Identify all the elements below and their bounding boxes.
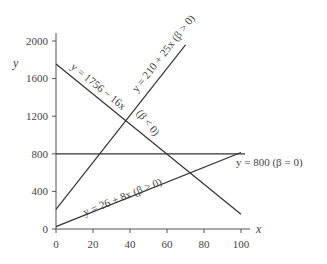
- y-axis-title: y: [12, 56, 19, 70]
- label-1756-minus-16x: y = 1756 − 16x: [69, 60, 129, 112]
- label-beta-lt-0: (β < 0): [134, 107, 163, 139]
- x-axis-title: x: [255, 222, 262, 236]
- x-tick-label: 40: [125, 238, 137, 250]
- y-ticks: [52, 41, 56, 229]
- y-tick-label: 0: [43, 223, 49, 235]
- x-tick-label: 20: [88, 238, 100, 250]
- y-tick-label: 1200: [26, 110, 49, 122]
- label-800: y = 800 (β = 0): [236, 156, 303, 169]
- x-tick-label: 100: [233, 238, 250, 250]
- y-tick-label: 2000: [26, 35, 49, 47]
- x-tick-label: 80: [199, 238, 211, 250]
- x-ticks: [56, 229, 241, 233]
- label-26-plus-8x: y = 26 + 8x (β > 0): [81, 175, 164, 219]
- chart: 0 400 800 1200 1600 2000 0 20 40 60 80 1…: [0, 0, 327, 264]
- x-tick-label: 60: [162, 238, 174, 250]
- x-tick-label: 0: [53, 238, 59, 250]
- y-tick-label: 1600: [26, 72, 49, 84]
- y-tick-label: 800: [32, 148, 49, 160]
- label-210-plus-25x: y = 210 + 25x (β > 0): [129, 12, 198, 95]
- y-tick-label: 400: [32, 185, 49, 197]
